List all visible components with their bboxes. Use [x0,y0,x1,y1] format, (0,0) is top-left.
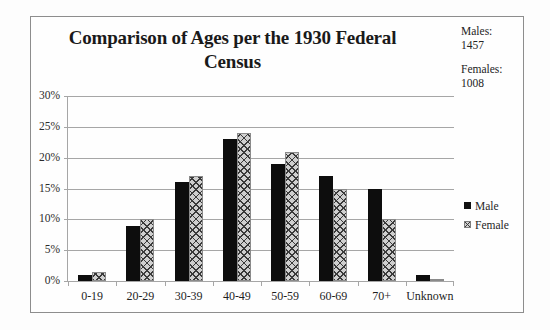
bar-female-20-29[interactable] [140,219,154,281]
bar-female-30-39[interactable] [189,176,203,281]
legend-swatch-female-icon [464,221,471,228]
x-axis-tick-label: Unknown [406,289,454,304]
bar-female-0-19[interactable] [92,272,106,281]
y-axis-tick-label: 5% [20,243,60,255]
bar-male-0-19[interactable] [78,275,92,281]
gridline [68,96,454,97]
x-tick-mark [406,281,407,286]
x-axis-tick-label: 0-19 [68,289,116,304]
x-tick-mark [116,281,117,286]
bar-male-60-69[interactable] [319,176,333,281]
bar-male-Unknown[interactable] [416,275,430,281]
x-tick-mark [68,281,69,286]
x-tick-mark [213,281,214,286]
plot-area [68,96,454,281]
y-tick-mark [64,127,68,128]
females-total-annotation: Females:1008 [461,62,503,90]
chart-page: Comparison of Ages per the 1930 Federal … [0,0,550,330]
females-value: 1008 [461,77,484,89]
y-tick-mark [64,250,68,251]
x-axis-tick-label: 20-29 [116,289,164,304]
y-axis-tick-label: 10% [20,212,60,224]
gridline [68,189,454,190]
y-axis-tick-label: 30% [20,89,60,101]
bar-male-20-29[interactable] [126,226,140,282]
bar-male-30-39[interactable] [175,182,189,281]
bar-female-40-49[interactable] [237,133,251,281]
bar-male-50-59[interactable] [271,164,285,281]
y-axis-tick-label: 25% [20,120,60,132]
gridline [68,219,454,220]
bar-female-50-59[interactable] [285,152,299,282]
x-tick-mark [309,281,310,286]
bar-male-40-49[interactable] [223,139,237,281]
x-axis-tick-label: 50-59 [261,289,309,304]
y-tick-mark [64,158,68,159]
legend-swatch-male-icon [464,202,471,209]
y-axis-tick-label: 15% [20,182,60,194]
x-tick-mark [358,281,359,286]
x-axis-tick-label: 70+ [358,289,406,304]
bar-female-70plus[interactable] [382,219,396,281]
legend: Male Female [464,196,509,234]
legend-label-female: Female [475,219,509,231]
bar-male-70plus[interactable] [368,189,382,282]
x-tick-mark [261,281,262,286]
y-tick-mark [64,189,68,190]
x-axis-tick-label: 40-49 [213,289,261,304]
y-axis-tick-label: 20% [20,151,60,163]
gridline [68,158,454,159]
legend-label-male: Male [475,200,499,212]
y-tick-mark [64,96,68,97]
bar-female-60-69[interactable] [333,189,347,282]
legend-item-male[interactable]: Male [464,196,509,215]
page-title: Comparison of Ages per the 1930 Federal … [60,26,405,74]
y-tick-mark [64,219,68,220]
x-tick-mark [453,281,454,286]
x-tick-mark [165,281,166,286]
males-label: Males: [461,25,492,37]
legend-item-female[interactable]: Female [464,215,509,234]
bar-female-Unknown[interactable] [430,279,444,281]
females-label: Females: [461,63,503,75]
y-axis-tick-label: 0% [20,274,60,286]
males-total-annotation: Males:1457 [461,24,492,52]
males-value: 1457 [461,39,484,51]
gridline [68,127,454,128]
x-axis-tick-label: 30-39 [165,289,213,304]
x-axis-tick-label: 60-69 [309,289,357,304]
